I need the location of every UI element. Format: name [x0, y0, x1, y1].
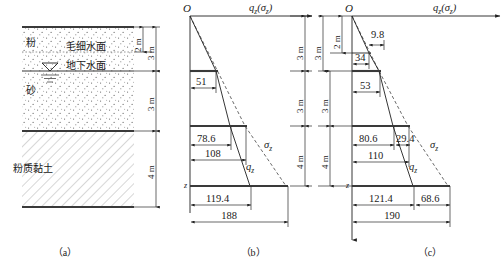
- dim-label-c-3m-a: 3 m: [313, 46, 323, 60]
- layer-sand-fill: [22, 71, 134, 131]
- caption-c: （c）: [418, 247, 442, 258]
- value-label-c-190: 190: [384, 210, 400, 221]
- svg-text:σz: σz: [264, 139, 272, 153]
- figure-canvas: 粉 砂 粉质黏土 毛细水面 地下水面 2 m 3 m 3 m 4 m （a）: [0, 0, 504, 274]
- layer-label-sand: 砂: [26, 84, 36, 96]
- depth-axis-label-b: z: [183, 181, 188, 190]
- caption-b: （b）: [241, 247, 266, 258]
- value-label-c-29-4: 29.4: [396, 133, 415, 144]
- svg-text:σz: σz: [430, 139, 438, 153]
- curve-label-qz-c: qz: [409, 161, 417, 175]
- value-label-b-119-4: 119.4: [206, 193, 230, 204]
- layer-label-silty-clay: 粉质黏土: [13, 162, 53, 174]
- panel-a-soil-profile: 粉 砂 粉质黏土 毛细水面 地下水面 2 m 3 m 3 m 4 m （a）: [13, 27, 160, 258]
- curve-qz-b: [190, 16, 250, 186]
- value-label-c-80-6: 80.6: [359, 133, 377, 144]
- curve-sigmaz-c: [352, 16, 448, 186]
- depth-axis-label-c: z: [345, 181, 350, 190]
- value-group-c-34: 34: [353, 52, 369, 69]
- value-label-c-121-4: 121.4: [369, 193, 393, 204]
- origin-label-c: O: [345, 2, 353, 14]
- dim-label-a-3m-silt: 3 m: [146, 46, 156, 60]
- value-label-c-34: 34: [355, 52, 366, 63]
- value-label-b-51: 51: [196, 76, 207, 87]
- value-label-c-110: 110: [368, 150, 383, 161]
- dim-label-b-3m-b: 3 m: [295, 99, 305, 113]
- svg-text:qz(σz): qz(σz): [433, 2, 457, 16]
- value-group-b-78-6: 78.6: [191, 126, 231, 150]
- value-label-c-9-8: 9.8: [371, 29, 384, 40]
- value-label-b-108: 108: [205, 148, 221, 159]
- curve-label-sigmaz-c: σz: [430, 139, 438, 153]
- value-group-b-119-4: 119.4: [191, 186, 251, 210]
- figure-root: 粉 砂 粉质黏土 毛细水面 地下水面 2 m 3 m 3 m 4 m （a）: [0, 0, 504, 274]
- value-group-c-80-6: 80.6: [353, 126, 394, 150]
- dim-label-c-2m: 2 m: [332, 35, 342, 49]
- svg-text:qz: qz: [409, 161, 417, 175]
- dim-label-c-3m-b: 3 m: [320, 99, 330, 113]
- value-group-c-121-4: 121.4: [353, 186, 414, 210]
- value-group-c-9-8: 9.8: [369, 29, 384, 50]
- svg-text:qz(σz): qz(σz): [249, 2, 273, 16]
- dim-label-a-4m: 4 m: [146, 165, 156, 179]
- dim-label-a-2m: 2 m: [133, 38, 143, 52]
- dim-label-a-3m-sand: 3 m: [146, 97, 156, 111]
- origin-label-b: O: [183, 2, 191, 14]
- groundwater-table-label: 地下水面: [66, 59, 106, 71]
- value-group-b-108: 108: [191, 126, 246, 165]
- curve-label-sigmaz-b: σz: [264, 139, 272, 153]
- panel-c-stress-diagram: O qz(σz) z 9.8: [313, 2, 500, 258]
- value-label-b-78-6: 78.6: [197, 133, 215, 144]
- dim-label-c-4m: 4 m: [320, 155, 330, 169]
- value-label-c-68-6: 68.6: [421, 193, 439, 204]
- layer-label-silt: 粉: [26, 36, 36, 48]
- dim-label-b-4m: 4 m: [295, 155, 305, 169]
- value-group-c-68-6: 68.6: [416, 193, 450, 205]
- capillary-surface-label: 毛细水面: [66, 40, 106, 52]
- value-label-c-53: 53: [360, 80, 371, 91]
- value-group-c-53: 53: [353, 71, 380, 97]
- value-group-c-29-4: 29.4: [396, 133, 415, 145]
- axis-label-b: qz(σz): [249, 2, 273, 16]
- panel-b-stress-diagram: O qz(σz) z 51: [183, 2, 312, 258]
- svg-text:qz: qz: [246, 161, 254, 175]
- curve-sigmaz-b: [190, 16, 286, 186]
- value-group-b-51: 51: [191, 71, 216, 93]
- value-label-b-188: 188: [221, 210, 237, 221]
- curve-label-qz-b: qz: [246, 161, 254, 175]
- caption-a: （a）: [53, 247, 77, 258]
- axis-label-c: qz(σz): [433, 2, 457, 16]
- dim-label-b-3m-a: 3 m: [295, 46, 305, 60]
